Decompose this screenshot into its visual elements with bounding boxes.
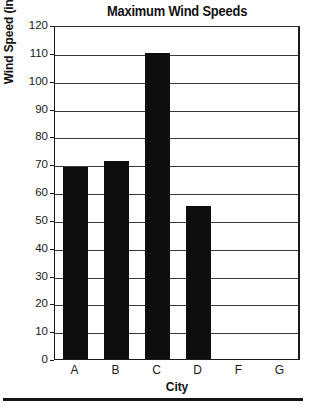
x-tick-label-d: D bbox=[177, 364, 218, 377]
y-tick-label: 70 bbox=[8, 159, 48, 170]
bar-d bbox=[186, 206, 211, 359]
x-tick-label-f: F bbox=[218, 364, 259, 377]
y-tick-label: 110 bbox=[8, 48, 48, 59]
bars-layer bbox=[55, 27, 298, 359]
bottom-rule-divider bbox=[3, 398, 303, 401]
y-tick-label: 40 bbox=[8, 243, 48, 254]
x-tick-label-c: C bbox=[136, 364, 177, 377]
bar-slot bbox=[219, 27, 260, 359]
x-tick-label-g: G bbox=[259, 364, 300, 377]
y-tick-label: 90 bbox=[8, 104, 48, 115]
bar-slot bbox=[96, 27, 137, 359]
x-tick-label-b: B bbox=[95, 364, 136, 377]
y-tick-label: 0 bbox=[8, 354, 48, 365]
y-tick-label: 100 bbox=[8, 76, 48, 87]
bar-b bbox=[104, 161, 129, 359]
bar-slot bbox=[260, 27, 301, 359]
bar-slot bbox=[55, 27, 96, 359]
bar-a bbox=[63, 167, 88, 359]
y-tick-label: 30 bbox=[8, 271, 48, 282]
chart-title: Maximum Wind Speeds bbox=[64, 2, 290, 20]
y-tick-mark bbox=[50, 360, 54, 361]
x-axis-title: City bbox=[54, 380, 300, 394]
y-tick-label: 120 bbox=[8, 20, 48, 31]
bar-slot bbox=[178, 27, 219, 359]
y-tick-label: 80 bbox=[8, 131, 48, 142]
bar-slot bbox=[137, 27, 178, 359]
bar-c bbox=[145, 53, 170, 359]
y-tick-label: 10 bbox=[8, 326, 48, 337]
y-tick-label: 50 bbox=[8, 215, 48, 226]
y-tick-label: 60 bbox=[8, 187, 48, 198]
x-tick-label-a: A bbox=[54, 364, 95, 377]
y-tick-label: 20 bbox=[8, 298, 48, 309]
plot-area bbox=[54, 26, 300, 360]
